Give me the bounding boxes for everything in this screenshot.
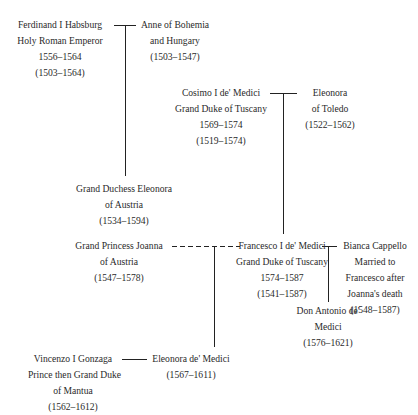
person-cosimo: Cosimo I de' Medici Grand Duke of Tuscan… bbox=[174, 85, 268, 149]
lifespan-text: (1534–1594) bbox=[72, 213, 176, 229]
title-text: Prince then Grand Duke bbox=[28, 367, 118, 383]
note-text: Married to bbox=[338, 254, 412, 270]
title-text: Grand Duke of Tuscany bbox=[236, 254, 328, 270]
name-text: Anne of Bohemia bbox=[140, 17, 210, 33]
lifespan-text: (1576–1621) bbox=[290, 335, 366, 351]
name-text: Cosimo I de' Medici bbox=[174, 85, 268, 101]
name-text: of Toledo bbox=[300, 101, 360, 117]
descent-line-francesco bbox=[283, 93, 284, 234]
marriage-line-vincenzo-eleonora bbox=[122, 359, 147, 360]
name-text: Eleonora bbox=[300, 85, 360, 101]
person-vincenzo: Vincenzo I Gonzaga Prince then Grand Duk… bbox=[28, 351, 118, 415]
lifespan-text: (1562–1612) bbox=[28, 399, 118, 415]
name-text: Francesco I de' Medici bbox=[236, 238, 328, 254]
note-text: Joanna's death bbox=[338, 286, 412, 302]
marriage-line-joanna-francesco bbox=[172, 246, 240, 247]
person-eleonora-austria: Grand Duchess Eleonora of Austria (1534–… bbox=[72, 181, 176, 229]
lifespan-text: (1503–1547) bbox=[140, 49, 210, 65]
lifespan-text: (1541–1587) bbox=[236, 286, 328, 302]
descent-line-antonio bbox=[328, 246, 329, 302]
name-text: Medici bbox=[290, 319, 366, 335]
title-text: Grand Duke of Tuscany bbox=[174, 101, 268, 117]
note-text: Francesco after bbox=[338, 270, 412, 286]
person-anne: Anne of Bohemia and Hungary (1503–1547) bbox=[140, 17, 210, 65]
name-text: Grand Princess Joanna bbox=[68, 238, 170, 254]
person-antonio: Don Antonio de' Medici (1576–1621) bbox=[290, 303, 366, 351]
descent-line-eleonora-austria bbox=[125, 25, 126, 176]
name-text: of Austria bbox=[72, 197, 176, 213]
person-eleonora-toledo: Eleonora of Toledo (1522–1562) bbox=[300, 85, 360, 133]
name-text: and Hungary bbox=[140, 33, 210, 49]
lifespan-text: (1503–1564) bbox=[14, 65, 106, 81]
person-ferdinand: Ferdinand I Habsburg Holy Roman Emperor … bbox=[14, 17, 106, 81]
person-joanna: Grand Princess Joanna of Austria (1547–1… bbox=[68, 238, 170, 286]
title-text: Holy Roman Emperor bbox=[14, 33, 106, 49]
name-text: Eleonora de' Medici bbox=[150, 351, 232, 367]
lifespan-text: (1547–1578) bbox=[68, 270, 170, 286]
name-text: Vincenzo I Gonzaga bbox=[28, 351, 118, 367]
person-francesco: Francesco I de' Medici Grand Duke of Tus… bbox=[236, 238, 328, 302]
lifespan-text: (1522–1562) bbox=[300, 117, 360, 133]
title-text: of Mantua bbox=[28, 383, 118, 399]
reign-text: 1569–1574 bbox=[174, 117, 268, 133]
name-text: of Austria bbox=[68, 254, 170, 270]
name-text: Bianca Cappello bbox=[338, 238, 412, 254]
reign-text: 1574–1587 bbox=[236, 270, 328, 286]
name-text: Ferdinand I Habsburg bbox=[14, 17, 106, 33]
name-text: Don Antonio de' bbox=[290, 303, 366, 319]
descent-line-eleonora-medici bbox=[214, 246, 215, 347]
lifespan-text: (1567–1611) bbox=[150, 367, 232, 383]
name-text: Grand Duchess Eleonora bbox=[72, 181, 176, 197]
lifespan-text: (1519–1574) bbox=[174, 133, 268, 149]
person-eleonora-medici: Eleonora de' Medici (1567–1611) bbox=[150, 351, 232, 383]
reign-text: 1556–1564 bbox=[14, 49, 106, 65]
